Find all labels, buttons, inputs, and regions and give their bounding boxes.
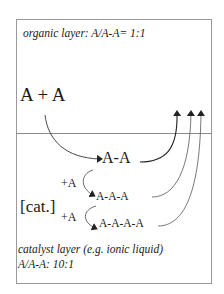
arrow-trimer-to-organic <box>152 113 191 197</box>
arrow-trimer-to-tetramer <box>85 206 96 228</box>
arrow-dimer-to-organic <box>140 113 177 162</box>
arrow-tetramer-to-organic <box>158 113 201 226</box>
arrow-reactants-to-dimer <box>45 115 100 159</box>
arrow-dimer-to-trimer <box>83 170 93 195</box>
reaction-arrows <box>0 0 224 294</box>
